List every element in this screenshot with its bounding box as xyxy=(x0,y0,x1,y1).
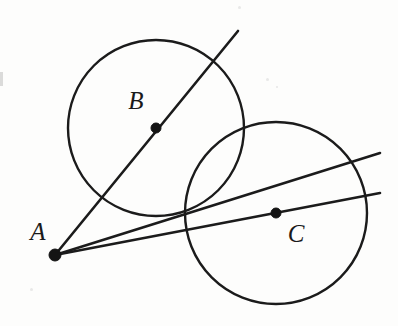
point-b-dot xyxy=(151,123,161,133)
speck-upper-right-artifact xyxy=(266,78,269,81)
point-label-a: A xyxy=(28,218,46,245)
left-edge-mark-artifact xyxy=(0,72,3,86)
geometry-figure: A B C xyxy=(0,0,398,326)
point-label-c: C xyxy=(288,220,305,247)
line-a-upper-secant xyxy=(55,153,380,255)
point-label-b: B xyxy=(128,87,143,114)
line-a-through-c xyxy=(55,193,380,255)
speck-lower-left-artifact xyxy=(30,288,33,291)
speck-top-right-artifact xyxy=(238,6,241,9)
figure-canvas: A B C xyxy=(0,0,398,326)
speck-mid-right-artifact xyxy=(276,86,278,88)
line-a-through-b xyxy=(55,31,238,255)
point-c-dot xyxy=(271,208,281,218)
point-a-dot xyxy=(49,249,61,261)
